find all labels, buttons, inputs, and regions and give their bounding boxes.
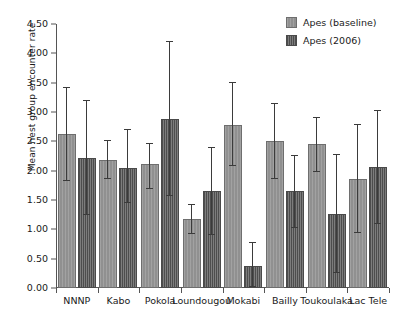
bar-baseline [266,141,284,288]
bar-group [99,24,137,288]
bar-group [58,24,96,288]
x-axis-tick-mark [389,288,390,293]
error-bar-y2006 [169,41,170,196]
x-axis-tick-label: NNNP [63,296,90,306]
y-axis-tick-labels: 0.000.501.001.502.002.503.003.504.004.50 [0,0,60,316]
error-bar-y2006 [252,242,253,287]
error-bar-cap-top [146,143,153,144]
x-axis-tick-label: Loundougou [172,296,231,306]
y-axis-tick-label: 3.50 [27,78,48,88]
error-bar-cap-bottom [146,188,153,189]
x-axis-tick-label: Kabo [107,296,131,306]
bar-group [308,24,346,288]
error-bar-cap-bottom [313,171,320,172]
legend-swatch-baseline-icon [286,17,297,28]
legend-item-2006: Apes (2006) [286,35,390,46]
bar-y2006 [328,214,346,289]
error-bar-cap-bottom [208,234,215,235]
error-bar-baseline [274,103,275,179]
x-axis-tick-mark [306,288,307,293]
error-bar-y2006 [86,100,87,214]
error-bar-cap-top [249,242,256,243]
bar-y2006 [244,266,262,288]
x-axis-tick-mark [56,288,57,293]
legend-swatch-2006-icon [286,35,297,46]
error-bar-cap-top [333,154,340,155]
error-bar-cap-top [374,110,381,111]
error-bar-y2006 [294,155,295,228]
error-bar-cap-bottom [354,232,361,233]
error-bar-cap-bottom [83,214,90,215]
bar-y2006 [203,191,221,288]
error-bar-cap-bottom [271,178,278,179]
bar-chart-figure: Mean nest group encounter rate 0.000.501… [0,0,395,316]
error-bar-baseline [66,87,67,181]
bar-baseline [58,134,76,288]
error-bar-cap-top [291,155,298,156]
bar-y2006 [369,167,387,288]
y-axis-tick-label: 4.50 [27,19,48,29]
bar-group [224,24,262,288]
error-bar-cap-bottom [63,180,70,181]
error-bar-cap-bottom [124,202,131,203]
legend-label-2006: Apes (2006) [303,36,361,46]
bar-y2006 [286,191,304,288]
y-axis-tick-label: 0.00 [27,283,48,293]
error-bar-cap-top [229,82,236,83]
chart-legend: Apes (baseline) Apes (2006) [286,17,390,53]
error-bar-cap-top [188,204,195,205]
bar-group [141,24,179,288]
x-axis-tick-label: Pokola [145,296,176,306]
x-axis-tick-mark [264,288,265,293]
x-axis-tick-label: Bailly [272,296,298,306]
y-axis-tick-label: 2.00 [27,166,48,176]
error-bar-y2006 [211,147,212,235]
y-axis-tick-label: 3.00 [27,107,48,117]
y-axis-tick-label: 0.50 [27,254,48,264]
bar-group [349,24,387,288]
legend-label-baseline: Apes (baseline) [303,18,377,28]
error-bar-y2006 [336,154,337,273]
bar-y2006 [78,158,96,288]
error-bar-cap-bottom [374,223,381,224]
error-bar-cap-bottom [104,178,111,179]
error-bar-cap-bottom [166,195,173,196]
x-axis-tick-mark [139,288,140,293]
error-bar-baseline [191,204,192,235]
bar-baseline [308,144,326,288]
x-axis-tick-mark [98,288,99,293]
error-bar-cap-top [313,117,320,118]
error-bar-cap-top [124,129,131,130]
bar-y2006 [161,119,179,288]
x-axis-tick-mark [347,288,348,293]
bar-group [183,24,221,288]
error-bar-cap-top [166,41,173,42]
y-axis-tick-label: 2.50 [27,137,48,147]
error-bar-baseline [357,124,358,233]
x-axis-tick-label: Lac Tele [349,296,387,306]
error-bar-cap-top [208,147,215,148]
y-axis-tick-label: 4.00 [27,49,48,59]
error-bar-cap-bottom [333,272,340,273]
error-bar-cap-top [104,140,111,141]
x-axis-tick-mark [181,288,182,293]
error-bar-y2006 [377,110,378,224]
y-axis-tick-label: 1.00 [27,225,48,235]
bar-baseline [224,125,242,288]
error-bar-cap-bottom [229,165,236,166]
bar-baseline [349,179,367,288]
bar-baseline [141,164,159,288]
bar-baseline [183,219,201,288]
error-bar-cap-bottom [249,286,256,287]
x-axis-tick-label: Mokabi [226,296,260,306]
y-axis-tick-label: 1.50 [27,195,48,205]
error-bar-cap-top [271,103,278,104]
error-bar-cap-top [354,124,361,125]
x-axis-tick-labels: NNNPKaboPokolaLoundougouMokabiBaillyTouk… [56,288,389,316]
error-bar-baseline [107,140,108,180]
error-bar-y2006 [127,129,128,203]
bar-group [266,24,304,288]
error-bar-baseline [149,143,150,189]
x-axis-tick-label: Toukoulaka [300,296,353,306]
error-bar-cap-bottom [188,233,195,234]
